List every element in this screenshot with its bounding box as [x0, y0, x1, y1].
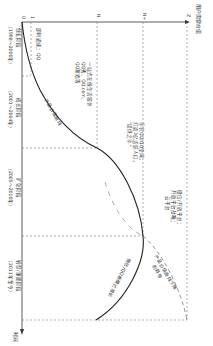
annotation-stage4: 微信/开放平台； 开放平台战略； 云平台	[164, 190, 183, 227]
stage-2-name: 成长阶段	[15, 98, 22, 118]
decline-dashed-curve	[143, 236, 187, 320]
annotation-decline: 产品价值曲线下降 的趋势	[150, 254, 178, 292]
time-axis-arrow-icon	[20, 329, 24, 335]
stage-labels: 创业阶段 （1998～2000年） 成长阶段 （2001～2004年） 扩张阶段…	[7, 24, 22, 295]
level-z-label: Z	[186, 14, 191, 17]
stage-1-period: （1998～2000年）	[7, 24, 14, 67]
time-axis-label: 时间	[12, 332, 19, 342]
annotation-stage2: 一站式在线生活服务 QQ秀、QQ.com、 QQ游戏等	[74, 62, 93, 107]
level-1-label: 1	[30, 16, 35, 19]
svg-text:云平台: 云平台	[164, 196, 171, 211]
level-n-label: N	[96, 14, 101, 17]
svg-text:QQ游戏等: QQ游戏等	[74, 62, 81, 84]
svg-text:一站式在线生活服务: 一站式在线生活服务	[86, 62, 93, 107]
svg-text:QQ秀、QQ.com、: QQ秀、QQ.com、	[80, 62, 87, 103]
value-axis-arrow-icon	[185, 20, 190, 24]
stage-4-name: 转型/重建阶段	[15, 260, 22, 292]
axes	[20, 20, 190, 335]
svg-text:手机QQ/QQ空间，: 手机QQ/QQ空间，	[138, 122, 145, 163]
stage-4-period: （2011年至今）	[7, 258, 14, 295]
stage-3-name: 扩张阶段	[15, 178, 22, 198]
svg-text:微信/开放平台；: 微信/开放平台；	[176, 190, 183, 227]
annotation-stage1: 即时通讯：QQ	[35, 28, 42, 61]
svg-text:“提供之手”: “提供之手”	[126, 122, 133, 147]
qq-value-curve-diagram: 用户需要价值 时间 0 1 N N+ Z 创业阶段 （1998～2000年） 成…	[0, 0, 213, 346]
stage-separators	[22, 76, 187, 320]
value-axis-label: 用户需要价值	[195, 4, 202, 34]
stage-3-period: （2005～2010年）	[7, 166, 14, 209]
svg-text:微信/QQ新模式增长: 微信/QQ新模式增长	[106, 257, 133, 299]
annotation-new-growth: 微信/QQ新模式增长	[106, 257, 133, 299]
stage-2-period: （2001～2004年）	[7, 88, 14, 131]
inner-dashed-curve	[105, 182, 143, 236]
curve-label: 产品价值曲线	[42, 98, 63, 127]
origin-label: 0	[21, 16, 27, 19]
stage-1-name: 创业阶段	[15, 28, 22, 48]
value-guides	[31, 22, 187, 320]
annotation-stage3: 手机QQ/QQ空间， 打造3亿活跃人口， “提供之手”	[126, 122, 145, 165]
svg-text:打造3亿活跃人口，: 打造3亿活跃人口，	[132, 122, 139, 165]
svg-text:开放平台战略；: 开放平台战略；	[170, 190, 177, 225]
level-nplus-label: N+	[142, 13, 147, 20]
